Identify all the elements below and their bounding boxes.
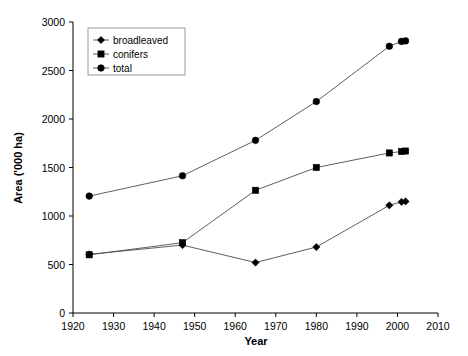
x-tick-label: 2010 <box>426 320 450 332</box>
x-tick-label: 1950 <box>183 320 207 332</box>
chart-legend: broadleavedconiferstotal <box>88 28 185 75</box>
y-tick-label: 3000 <box>42 16 66 28</box>
square-marker-icon <box>179 240 185 246</box>
y-tick-label: 0 <box>59 307 65 319</box>
square-marker-icon <box>98 51 104 57</box>
y-tick-label: 1500 <box>42 162 66 174</box>
line-chart: 050010001500200025003000 192019301940195… <box>0 0 468 356</box>
x-tick-label: 1940 <box>142 320 166 332</box>
y-tick-label: 1000 <box>42 210 66 222</box>
circle-marker-icon <box>98 65 105 72</box>
legend-label: broadleaved <box>113 35 168 46</box>
square-marker-icon <box>386 150 392 156</box>
circle-marker-icon <box>313 98 320 105</box>
x-tick-label: 1980 <box>305 320 329 332</box>
y-tick-label: 2000 <box>42 113 66 125</box>
x-tick-label: 1990 <box>345 320 369 332</box>
legend-label: conifers <box>113 49 148 60</box>
legend-label: total <box>113 63 132 74</box>
square-marker-icon <box>402 148 408 154</box>
circle-marker-icon <box>402 38 409 45</box>
x-tick-label: 1930 <box>102 320 126 332</box>
x-tick-label: 1970 <box>264 320 288 332</box>
circle-marker-icon <box>252 137 259 144</box>
chart-canvas: 050010001500200025003000 192019301940195… <box>0 0 468 356</box>
circle-marker-icon <box>86 193 93 200</box>
y-tick-label: 2500 <box>42 65 66 77</box>
chart-background <box>0 0 468 356</box>
square-marker-icon <box>313 164 319 170</box>
x-tick-label: 1960 <box>224 320 248 332</box>
x-tick-label: 2000 <box>386 320 410 332</box>
x-axis-title: Year <box>244 335 268 347</box>
square-marker-icon <box>86 252 92 258</box>
x-tick-label: 1920 <box>61 320 85 332</box>
circle-marker-icon <box>179 172 186 179</box>
y-tick-label: 500 <box>47 259 65 271</box>
circle-marker-icon <box>386 43 393 50</box>
square-marker-icon <box>252 187 258 193</box>
y-axis-title: Area ('000 ha) <box>12 132 24 204</box>
